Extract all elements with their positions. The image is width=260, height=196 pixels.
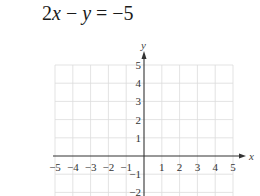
y-tick-label: 5 — [136, 59, 142, 71]
x-axis-label: x — [248, 150, 254, 162]
y-axis-arrow-icon — [142, 51, 147, 59]
x-tick-label: −2 — [103, 161, 115, 173]
x-tick-label: −3 — [85, 161, 97, 173]
y-tick-label: 1 — [136, 132, 142, 144]
tick-labels: xy−5−4−3−2−11234554321−1−2 — [49, 39, 254, 196]
y-tick-label: 4 — [136, 77, 142, 89]
coordinate-grid: xy−5−4−3−2−11234554321−1−2 — [0, 0, 260, 196]
x-tick-label: 5 — [230, 161, 236, 173]
y-tick-label: −2 — [129, 186, 141, 196]
x-tick-label: −4 — [67, 161, 79, 173]
y-tick-label: −1 — [129, 168, 141, 180]
x-tick-label: 1 — [159, 161, 165, 173]
x-tick-label: 2 — [177, 161, 183, 173]
x-tick-label: −5 — [49, 161, 61, 173]
y-axis-label: y — [140, 39, 146, 51]
y-tick-label: 2 — [136, 114, 142, 126]
x-tick-label: 3 — [195, 161, 201, 173]
y-tick-label: 3 — [136, 95, 142, 107]
x-tick-label: 4 — [212, 161, 218, 173]
x-axis-arrow-icon — [239, 154, 246, 159]
